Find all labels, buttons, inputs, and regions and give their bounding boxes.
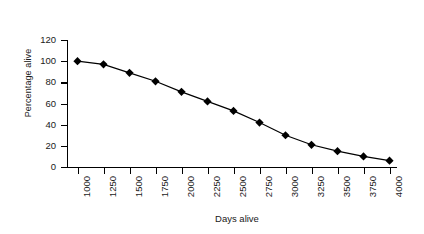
data-point-marker: 1750: 81 — [151, 77, 159, 85]
data-point-marker: 2000: 71 — [177, 88, 185, 96]
chart-figure: Percentage alive 020406080100120 1000125… — [0, 0, 424, 234]
data-point-marker: 4000: 6 — [385, 157, 393, 165]
data-point-marker: 2500: 53 — [229, 107, 237, 115]
data-point-marker: 1500: 89 — [125, 69, 133, 77]
series-plot: 1000: 1001250: 971500: 891750: 812000: 7… — [0, 0, 424, 234]
x-axis-title: Days alive — [0, 213, 424, 224]
data-point-marker: 3750: 10 — [359, 152, 367, 160]
data-point-marker: 2250: 62 — [203, 97, 211, 105]
data-point-marker: 3000: 30 — [281, 131, 289, 139]
data-point-marker: 1000: 100 — [73, 57, 81, 65]
data-point-marker: 3250: 21 — [307, 141, 315, 149]
data-point-marker: 1250: 97 — [99, 60, 107, 68]
data-point-marker: 2750: 42 — [255, 118, 263, 126]
data-point-marker: 3500: 15 — [333, 147, 341, 155]
